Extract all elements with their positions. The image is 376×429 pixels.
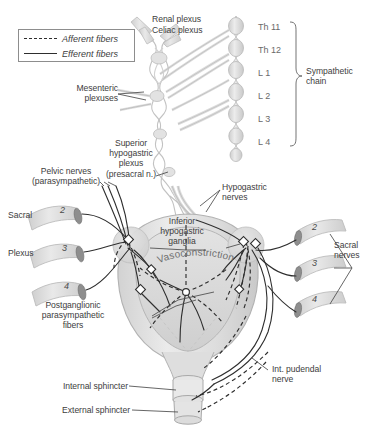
label-hypogastric-nerves: Hypogastric nerves [222, 182, 267, 202]
label-sacral-nerves: Sacral nerves [334, 240, 360, 260]
fiber-type-legend: Afferent fibers Efferent fibers [18, 29, 135, 62]
label-external-sphincter: External sphincter [22, 405, 130, 415]
legend-label-efferent: Efferent fibers [62, 49, 118, 59]
spinal-level-th12: Th 12 [258, 45, 281, 55]
root-number-s3-right: 3 [312, 258, 317, 268]
label-int-pudendal-nerve: Int. pudendal nerve [272, 364, 321, 384]
label-mesenteric-plexuses: Mesenteric plexuses [42, 83, 118, 103]
root-number-s3-left: 3 [62, 243, 67, 253]
legend-label-afferent: Afferent fibers [62, 34, 118, 44]
sympathetic-chain-graphic [229, 16, 244, 162]
sacral-roots-right-graphic [293, 220, 346, 318]
sacral-roots-left-graphic [28, 206, 87, 306]
spinal-level-l4: L 4 [258, 137, 270, 147]
label-plexus: Plexus [8, 248, 34, 258]
label-renal-plexus: Renal plexus [152, 14, 201, 24]
label-internal-sphincter: Internal sphincter [22, 381, 128, 391]
spinal-level-l1: L 1 [258, 68, 270, 78]
legend-row-efferent: Efferent fibers [19, 46, 136, 61]
urethra-sphincters-graphic [173, 380, 203, 424]
dashed-line-icon [24, 34, 57, 44]
label-pelvic-nerves: Pelvic nerves (parasympathetic) [22, 166, 110, 186]
root-number-s2-left: 2 [60, 205, 65, 215]
spinal-level-th11: Th 11 [258, 22, 280, 32]
solid-line-icon [24, 49, 57, 59]
label-postganglionic-parasympathetic-fibers: Postganglionic parasympathetic fibers [18, 300, 128, 331]
label-celiac-plexus: Celiac plexus [152, 25, 202, 35]
sympathetic-chain-brace [290, 22, 302, 146]
label-sympathetic-chain: Sympathetic chain [306, 66, 353, 86]
legend-row-afferent: Afferent fibers [19, 31, 136, 46]
root-number-s2-right: 2 [312, 222, 317, 232]
figure-canvas: Vasoconstriction [0, 0, 376, 429]
root-number-s4-left: 4 [64, 281, 69, 291]
spinal-level-l3: L 3 [258, 114, 270, 124]
spinal-level-l2: L 2 [258, 91, 270, 101]
root-number-s4-right: 4 [312, 294, 317, 304]
label-inferior-hypogastric-ganglia: Inferior hypogastric ganglia [140, 216, 224, 247]
label-sacral: Sacral [8, 210, 32, 220]
